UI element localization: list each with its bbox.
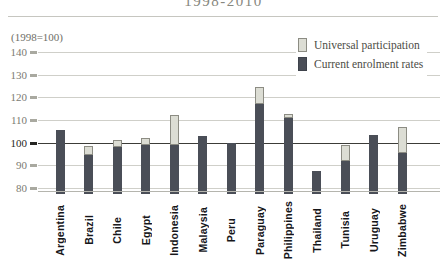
- x-axis-line: [38, 191, 440, 192]
- bar-current-enrolment-argentina: [56, 130, 65, 194]
- ytick-dash-80: [30, 187, 37, 190]
- ytick-dash-110: [30, 119, 37, 122]
- bar-current-enrolment-zimbabwe: [398, 153, 407, 194]
- xlabel-text-argentina: Argentina: [54, 205, 66, 256]
- bar-current-enrolment-tunisia: [341, 161, 350, 194]
- xlabel-zimbabwe: Zimbabwe: [394, 197, 410, 263]
- bar-universal-participation-philippines: [284, 114, 293, 117]
- xlabel-philippines: Philippines: [280, 197, 296, 263]
- xlabel-text-paraguay: Paraguay: [254, 206, 266, 255]
- bar-universal-participation-brazil: [84, 146, 93, 155]
- ytick-label-130: 130: [0, 70, 27, 81]
- bar-current-enrolment-paraguay: [255, 104, 264, 194]
- xlabel-paraguay: Paraguay: [252, 197, 268, 263]
- legend-swatch-current-enrolment-rates-icon: [298, 57, 307, 71]
- xlabel-text-philippines: Philippines: [282, 201, 294, 259]
- bar-universal-participation-egypt: [141, 138, 150, 145]
- bar-current-enrolment-brazil: [84, 155, 93, 194]
- legend: Universal participation Current enrolmen…: [296, 36, 427, 77]
- bar-current-enrolment-uruguay: [369, 135, 378, 194]
- bar-universal-participation-indonesia: [170, 115, 179, 144]
- ytick-dash-130: [30, 74, 37, 77]
- gridline-120: [38, 97, 440, 98]
- gridline-90: [38, 165, 440, 166]
- ytick-label-120: 120: [0, 92, 27, 103]
- xlabel-text-brazil: Brazil: [83, 215, 95, 245]
- xlabel-brazil: Brazil: [81, 197, 97, 263]
- xlabel-text-peru: Peru: [225, 218, 237, 242]
- xlabel-text-thailand: Thailand: [311, 208, 323, 253]
- xlabel-uruguay: Uruguay: [366, 197, 382, 263]
- legend-item-universal-participation: Universal participation: [298, 37, 423, 53]
- xlabel-peru: Peru: [223, 197, 239, 263]
- xlabel-chile: Chile: [109, 197, 125, 263]
- xlabel-text-tunisia: Tunisia: [339, 211, 351, 248]
- xlabel-text-malaysia: Malaysia: [197, 207, 209, 252]
- xlabel-text-chile: Chile: [111, 217, 123, 244]
- xlabel-egypt: Egypt: [138, 197, 154, 263]
- xlabel-text-zimbabwe: Zimbabwe: [396, 204, 408, 257]
- gridline-110: [38, 120, 440, 121]
- ytick-label-110: 110: [0, 115, 27, 126]
- ytick-dash-100: [30, 142, 37, 145]
- legend-swatch-universal-participation-icon: [298, 38, 307, 52]
- ytick-label-80: 80: [0, 183, 27, 194]
- ytick-label-100: 100: [0, 138, 27, 149]
- ytick-label-140: 140: [0, 47, 27, 58]
- xlabel-argentina: Argentina: [52, 197, 68, 263]
- bar-current-enrolment-indonesia: [170, 145, 179, 194]
- xlabel-text-indonesia: Indonesia: [168, 205, 180, 256]
- xlabel-tunisia: Tunisia: [337, 197, 353, 263]
- legend-label-current-enrolment-rates: Current enrolment rates: [314, 58, 423, 70]
- bar-current-enrolment-egypt: [141, 145, 150, 194]
- bar-current-enrolment-philippines: [284, 118, 293, 194]
- figure-root: { "page": { "title": "1998-2010", "index…: [0, 0, 447, 269]
- bar-universal-participation-zimbabwe: [398, 127, 407, 153]
- xlabel-text-egypt: Egypt: [140, 215, 152, 245]
- legend-label-universal-participation: Universal participation: [314, 39, 420, 51]
- bar-universal-participation-tunisia: [341, 145, 350, 161]
- xlabel-malaysia: Malaysia: [195, 197, 211, 263]
- bar-current-enrolment-malaysia: [198, 136, 207, 194]
- bar-current-enrolment-peru: [227, 143, 236, 194]
- bar-universal-participation-paraguay: [255, 87, 264, 104]
- ytick-dash-140: [30, 51, 37, 54]
- xlabel-text-uruguay: Uruguay: [368, 208, 380, 252]
- xlabel-indonesia: Indonesia: [166, 197, 182, 263]
- bar-current-enrolment-chile: [113, 147, 122, 194]
- legend-item-current-enrolment-rates: Current enrolment rates: [298, 56, 423, 72]
- gridline-100: [38, 143, 440, 144]
- gridline-80: [38, 188, 440, 189]
- bar-universal-participation-chile: [113, 140, 122, 147]
- ytick-label-90: 90: [0, 160, 27, 171]
- xlabel-thailand: Thailand: [309, 197, 325, 263]
- ytick-dash-120: [30, 96, 37, 99]
- ytick-dash-90: [30, 164, 37, 167]
